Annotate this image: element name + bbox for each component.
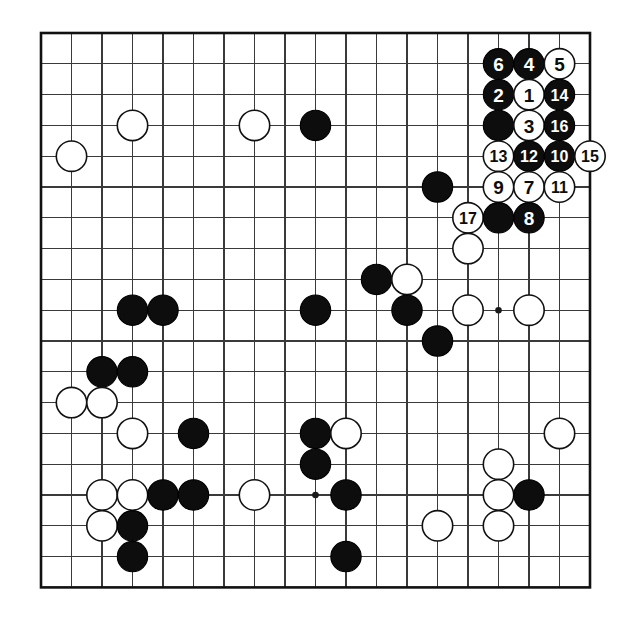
stone-white-move-17[interactable]: 17 xyxy=(453,203,483,233)
stone-white[interactable] xyxy=(117,110,147,140)
black-stone-disc xyxy=(178,480,208,510)
black-stone-disc xyxy=(331,541,361,571)
stone-black[interactable] xyxy=(300,449,330,479)
stone-white-move-9[interactable]: 9 xyxy=(483,172,513,202)
stone-white[interactable] xyxy=(117,418,147,448)
stone-black-move-12[interactable]: 12 xyxy=(514,141,544,171)
stone-white[interactable] xyxy=(483,480,513,510)
stone-white[interactable] xyxy=(544,418,574,448)
stone-black[interactable] xyxy=(148,295,178,325)
stone-white[interactable] xyxy=(87,480,117,510)
black-stone-disc xyxy=(148,295,178,325)
stone-black-move-14[interactable]: 14 xyxy=(544,79,574,109)
stone-white-move-5[interactable]: 5 xyxy=(544,49,574,79)
white-stone-disc xyxy=(544,418,574,448)
black-stone-disc xyxy=(514,203,544,233)
star-point xyxy=(312,492,319,499)
black-stone-disc xyxy=(117,295,147,325)
stone-white[interactable] xyxy=(453,233,483,263)
stone-white-move-1[interactable]: 1 xyxy=(514,79,544,109)
black-stone-disc xyxy=(117,511,147,541)
go-diagram-page: 6452114316131210159711178 xyxy=(0,0,636,638)
black-stone-disc xyxy=(300,295,330,325)
stone-white[interactable] xyxy=(483,449,513,479)
white-stone-disc xyxy=(453,203,483,233)
stone-white[interactable] xyxy=(392,264,422,294)
stone-black-move-6[interactable]: 6 xyxy=(483,49,513,79)
stone-black-move-8[interactable]: 8 xyxy=(514,203,544,233)
white-stone-disc xyxy=(483,141,513,171)
black-stone-disc xyxy=(117,357,147,387)
stone-black[interactable] xyxy=(483,203,513,233)
black-stone-disc xyxy=(544,79,574,109)
black-stone-disc xyxy=(483,79,513,109)
stone-black[interactable] xyxy=(300,418,330,448)
white-stone-disc xyxy=(544,172,574,202)
stone-black[interactable] xyxy=(117,357,147,387)
stone-white[interactable] xyxy=(453,295,483,325)
white-stone-disc xyxy=(453,233,483,263)
stone-black[interactable] xyxy=(514,480,544,510)
stone-black[interactable] xyxy=(117,511,147,541)
stone-black-move-4[interactable]: 4 xyxy=(514,49,544,79)
stone-black[interactable] xyxy=(117,295,147,325)
stone-black-move-10[interactable]: 10 xyxy=(544,141,574,171)
white-stone-disc xyxy=(87,480,117,510)
stone-white[interactable] xyxy=(514,295,544,325)
stone-white[interactable] xyxy=(239,480,269,510)
black-stone-disc xyxy=(422,172,452,202)
stone-white[interactable] xyxy=(87,387,117,417)
white-stone-disc xyxy=(514,172,544,202)
stone-black[interactable] xyxy=(87,357,117,387)
stone-white-move-13[interactable]: 13 xyxy=(483,141,513,171)
stone-white[interactable] xyxy=(239,110,269,140)
white-stone-disc xyxy=(117,110,147,140)
white-stone-disc xyxy=(544,49,574,79)
black-stone-disc xyxy=(300,418,330,448)
black-stone-disc xyxy=(544,110,574,140)
black-stone-disc xyxy=(361,264,391,294)
stone-white[interactable] xyxy=(87,511,117,541)
stone-black[interactable] xyxy=(300,295,330,325)
stone-black[interactable] xyxy=(331,480,361,510)
black-stone-disc xyxy=(87,357,117,387)
stone-white[interactable] xyxy=(483,511,513,541)
stone-black-move-16[interactable]: 16 xyxy=(544,110,574,140)
stone-white[interactable] xyxy=(56,141,86,171)
stone-white[interactable] xyxy=(331,418,361,448)
white-stone-disc xyxy=(483,511,513,541)
stone-black[interactable] xyxy=(117,541,147,571)
white-stone-disc xyxy=(392,264,422,294)
white-stone-disc xyxy=(514,79,544,109)
stones-layer[interactable]: 6452114316131210159711178 xyxy=(56,49,605,572)
stone-black[interactable] xyxy=(361,264,391,294)
stone-white-move-15[interactable]: 15 xyxy=(575,141,605,171)
white-stone-disc xyxy=(514,295,544,325)
white-stone-disc xyxy=(56,387,86,417)
white-stone-disc xyxy=(514,110,544,140)
stone-black[interactable] xyxy=(422,172,452,202)
stone-black[interactable] xyxy=(483,110,513,140)
stone-white[interactable] xyxy=(422,511,452,541)
stone-black[interactable] xyxy=(331,541,361,571)
stone-black[interactable] xyxy=(422,326,452,356)
black-stone-disc xyxy=(300,110,330,140)
black-stone-disc xyxy=(148,480,178,510)
stone-white-move-3[interactable]: 3 xyxy=(514,110,544,140)
stone-black-move-2[interactable]: 2 xyxy=(483,79,513,109)
stone-black[interactable] xyxy=(300,110,330,140)
white-stone-disc xyxy=(87,511,117,541)
stone-white-move-11[interactable]: 11 xyxy=(544,172,574,202)
stone-white-move-7[interactable]: 7 xyxy=(514,172,544,202)
black-stone-disc xyxy=(514,141,544,171)
stone-black[interactable] xyxy=(148,480,178,510)
go-board[interactable]: 6452114316131210159711178 xyxy=(0,0,636,638)
stone-white[interactable] xyxy=(117,480,147,510)
stone-black[interactable] xyxy=(178,418,208,448)
black-stone-disc xyxy=(544,141,574,171)
stone-white[interactable] xyxy=(56,387,86,417)
stone-black[interactable] xyxy=(178,480,208,510)
go-board-canvas[interactable]: 6452114316131210159711178 xyxy=(0,0,636,638)
stone-black[interactable] xyxy=(392,295,422,325)
white-stone-disc xyxy=(422,511,452,541)
